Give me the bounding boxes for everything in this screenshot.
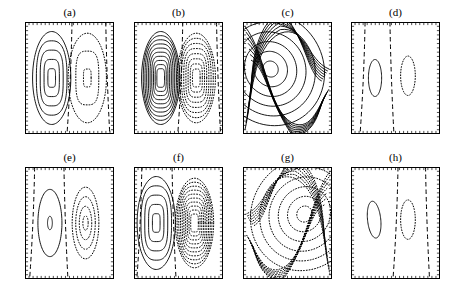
panel-plot-area-d [351, 22, 440, 134]
panel-a: (a) [25, 22, 114, 134]
panel-label-h: (h) [351, 151, 440, 163]
panel-label-e: (e) [25, 151, 114, 163]
panel-label-f: (f) [134, 151, 223, 163]
panel-e: (e) [25, 167, 114, 279]
panel-b: (b) [134, 22, 223, 134]
panel-label-d: (d) [351, 6, 440, 18]
contour-plot-figure: (a)(b)(c)(d)(e)(f)(g)(h) [0, 0, 457, 292]
panel-plot-area-h [351, 167, 440, 279]
panel-plot-area-b [134, 22, 223, 134]
panel-plot-area-e [25, 167, 114, 279]
panel-f: (f) [134, 167, 223, 279]
panel-label-a: (a) [25, 6, 114, 18]
panel-plot-area-c [243, 22, 332, 134]
panel-label-g: (g) [243, 151, 332, 163]
panel-g: (g) [243, 167, 332, 279]
panel-label-c: (c) [243, 6, 332, 18]
panel-plot-area-g [243, 167, 332, 279]
panel-h: (h) [351, 167, 440, 279]
panel-c: (c) [243, 22, 332, 134]
panel-plot-area-a [25, 22, 114, 134]
panel-plot-area-f [134, 167, 223, 279]
panel-d: (d) [351, 22, 440, 134]
panel-label-b: (b) [134, 6, 223, 18]
